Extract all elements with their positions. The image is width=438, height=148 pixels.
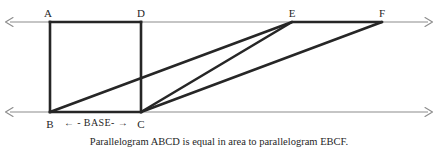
vertex-label-e: E [289, 8, 296, 19]
vertex-label-f: F [379, 8, 385, 19]
vertex-label-c: C [137, 119, 144, 130]
geometry-figure: A D E F B C ← - BASE- → Parallelogram AB… [0, 0, 438, 148]
parallelogram-abcd [50, 22, 141, 112]
parallelogram-ebcf [50, 22, 382, 112]
segment-be [50, 22, 292, 112]
vertex-label-b: B [46, 119, 53, 130]
figure-caption: Parallelogram ABCD is equal in area to p… [0, 136, 438, 148]
segment-ce [141, 22, 292, 112]
vertex-label-d: D [137, 8, 145, 19]
segment-cf [141, 22, 382, 112]
vertex-label-a: A [44, 8, 52, 19]
base-annotation: ← - BASE- → [64, 117, 128, 128]
